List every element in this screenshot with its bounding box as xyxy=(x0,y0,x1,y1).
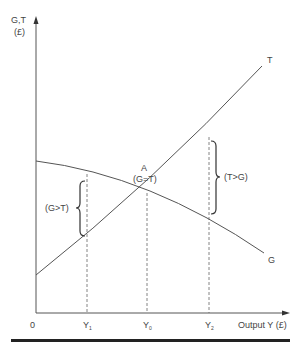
y0-label: Y0 xyxy=(143,320,152,331)
y1-label: Y1 xyxy=(83,320,92,331)
surplus-brace xyxy=(211,141,220,214)
y1-subscript: 1 xyxy=(89,325,92,331)
point-a-label: A xyxy=(141,163,147,173)
deficit-label: (G>T) xyxy=(45,203,69,213)
g-curve-label: G xyxy=(268,255,275,265)
bottom-rule xyxy=(11,339,290,342)
y2-subscript: 2 xyxy=(211,325,214,331)
origin-label: 0 xyxy=(30,320,35,330)
y-axis-arrow-icon xyxy=(34,16,39,24)
x-axis-arrow-icon xyxy=(282,311,290,316)
point-a-note: (G=T) xyxy=(133,174,157,184)
x-axis-label: Output Y (£) xyxy=(238,320,287,330)
y0-subscript: 0 xyxy=(149,325,152,331)
y2-label: Y2 xyxy=(205,320,214,331)
deficit-brace xyxy=(76,181,85,236)
t-curve xyxy=(36,66,262,275)
y-axis-label: G,T xyxy=(11,15,26,25)
y-axis-unit: (£) xyxy=(14,27,25,37)
surplus-label: (T>G) xyxy=(224,172,248,182)
t-curve-label: T xyxy=(267,55,273,65)
